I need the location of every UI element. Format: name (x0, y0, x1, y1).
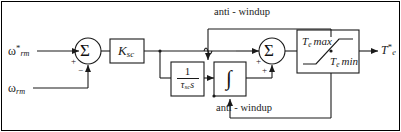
lower-limit-text: min (342, 55, 359, 67)
error-summer-sigma: Σ (80, 42, 90, 59)
upper-limit-subscript: e (308, 40, 311, 49)
reference-subscript: rm (20, 49, 29, 58)
time-constant-numerator: 1 (174, 66, 201, 78)
saturation-lower-limit-label: Temin (330, 56, 358, 68)
pi-summer-sigma: Σ (264, 42, 274, 59)
error-summer-plus-sign: + (71, 57, 76, 66)
time-constant-denominator: τscs (174, 79, 201, 91)
control-block-diagram: ω*rm ωrm + − Σ Ksc 1 τscs ∫ + + Σ Temax … (0, 0, 401, 132)
reference-symbol: ω (8, 44, 16, 58)
anti-windup-bottom-label: anti - windup (216, 103, 272, 114)
feedback-input-label: ωrm (8, 82, 25, 96)
laplace-variable: s (190, 79, 194, 90)
feedback-subscript: rm (16, 87, 25, 96)
error-summer-minus-sign: − (78, 66, 83, 75)
pi-summer-left-plus-sign: + (256, 57, 261, 66)
integrator-glyph: ∫ (226, 68, 232, 89)
torque-symbol: T (381, 43, 388, 57)
feedback-symbol: ω (8, 81, 16, 95)
gain-subscript: sc (127, 49, 134, 59)
gain-symbol: K (118, 43, 127, 58)
time-constant-label: 1 τscs (174, 66, 201, 91)
anti-windup-top-label: anti - windup (214, 7, 270, 18)
pi-summer-bottom-plus-sign: + (262, 66, 267, 75)
torque-subscript: e (392, 48, 396, 57)
upper-limit-text: max (314, 35, 332, 47)
reference-input-label: ω*rm (8, 44, 29, 59)
node-dot-gain-branch (158, 49, 161, 52)
torque-output-label: T*e (381, 43, 396, 58)
node-dot-integrator-out (212, 94, 215, 97)
lower-limit-subscript: e (336, 60, 339, 69)
saturation-upper-limit-label: Temax (302, 36, 332, 48)
node-dot-saturation-tap (329, 49, 332, 52)
gain-block-label: Ksc (118, 44, 134, 59)
